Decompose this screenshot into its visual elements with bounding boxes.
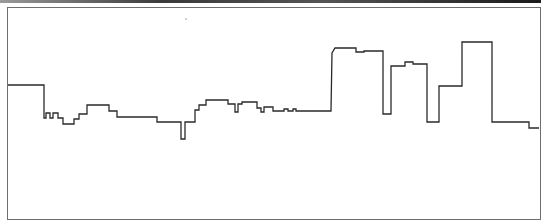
skyline-drawing bbox=[0, 0, 541, 221]
skyline-polyline bbox=[8, 42, 539, 139]
